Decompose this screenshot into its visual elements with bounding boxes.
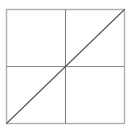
figure-canvas: Square divided into four quadrants with … bbox=[0, 0, 134, 132]
geometry-diagram bbox=[0, 0, 134, 132]
